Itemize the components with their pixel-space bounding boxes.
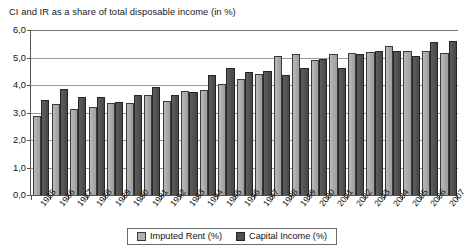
bar-ci-1992 (171, 95, 179, 195)
bar-group (32, 30, 51, 195)
legend-item: Imputed Rent (%) (137, 231, 222, 241)
bar-group (291, 30, 310, 195)
legend-label: Imputed Rent (%) (150, 231, 222, 241)
y-axis-label: 5,0 (13, 53, 26, 63)
bar-group (421, 30, 440, 195)
x-axis-label-cell: 2003 (365, 200, 384, 234)
bar-ci-1997 (263, 71, 271, 195)
bar-ir-1985 (33, 116, 41, 195)
bar-ir-1993 (181, 91, 189, 195)
bar-ci-2004 (393, 51, 401, 195)
bar-ir-1992 (163, 101, 171, 195)
y-axis-tick (27, 168, 31, 169)
bar-group (180, 30, 199, 195)
y-axis-tick (27, 113, 31, 114)
bar-ci-1990 (134, 95, 142, 195)
bar-ci-1987 (78, 97, 86, 195)
bar-ci-2000 (319, 59, 327, 195)
bar-group (199, 30, 218, 195)
y-axis-tick (27, 140, 31, 141)
x-axis-label-cell: 1985 (31, 200, 50, 234)
bar-ci-1999 (300, 68, 308, 195)
x-axis-label-cell: 2007 (439, 200, 458, 234)
bar-ir-1991 (144, 95, 152, 195)
bar-group (365, 30, 384, 195)
bar-ir-2007 (440, 53, 448, 195)
bar-ci-2003 (375, 51, 383, 195)
bar-ir-1990 (126, 103, 134, 195)
bar-ir-1988 (89, 107, 97, 195)
bar-group (402, 30, 421, 195)
bar-ci-1985 (41, 100, 49, 195)
bar-ci-1996 (245, 72, 253, 195)
bar-ir-1999 (292, 54, 300, 195)
bar-ir-2006 (422, 51, 430, 195)
legend-item: Capital Income (%) (236, 231, 327, 241)
x-axis-label-cell: 1988 (87, 200, 106, 234)
y-axis-tick (27, 85, 31, 86)
y-axis-tick (27, 58, 31, 59)
bar-ci-1998 (282, 75, 290, 195)
bar-ci-1986 (60, 89, 68, 195)
bar-group (310, 30, 329, 195)
y-axis-label: 4,0 (13, 80, 26, 90)
bar-group (106, 30, 125, 195)
y-axis-tick (27, 30, 31, 31)
x-axis-label-cell: 2005 (402, 200, 421, 234)
plot-area: 0,01,02,03,04,05,06,0 (30, 30, 458, 196)
bar-group (69, 30, 88, 195)
bar-ir-1987 (70, 109, 78, 195)
bar-group (273, 30, 292, 195)
bar-ir-2001 (329, 54, 337, 195)
bar-ir-2005 (403, 51, 411, 195)
x-axis-label-cell: 1989 (105, 200, 124, 234)
bar-ci-1993 (189, 92, 197, 195)
bar-ci-2007 (449, 41, 457, 195)
bar-group (328, 30, 347, 195)
bar-ir-1998 (274, 56, 282, 195)
bar-group (162, 30, 181, 195)
bar-ir-1989 (107, 103, 115, 195)
bar-group (254, 30, 273, 195)
x-axis-label-cell: 2002 (347, 200, 366, 234)
bar-ir-1994 (200, 90, 208, 195)
bar-ci-2002 (356, 54, 364, 195)
y-axis-label: 0,0 (13, 190, 26, 200)
bar-group (217, 30, 236, 195)
x-axis-label-cell: 2004 (384, 200, 403, 234)
x-axis-label-cell: 1987 (68, 200, 87, 234)
bar-group (347, 30, 366, 195)
bar-ir-2000 (311, 60, 319, 195)
y-axis-label: 6,0 (13, 25, 26, 35)
legend-label: Capital Income (%) (249, 231, 327, 241)
bar-ir-2004 (385, 46, 393, 195)
bar-ci-2006 (430, 42, 438, 195)
bar-ir-1997 (255, 74, 263, 195)
bar-ci-1991 (152, 87, 160, 195)
chart-title: CI and IR as a share of total disposable… (9, 6, 236, 17)
bar-group (143, 30, 162, 195)
bar-group (439, 30, 458, 195)
legend-swatch-ci (236, 232, 245, 241)
x-axis-label-cell: 2006 (421, 200, 440, 234)
bar-group (384, 30, 403, 195)
bar-ci-1995 (226, 68, 234, 195)
bar-group (125, 30, 144, 195)
bar-ir-1995 (218, 84, 226, 195)
bar-group (88, 30, 107, 195)
bar-ir-1996 (237, 79, 245, 195)
chart-legend: Imputed Rent (%)Capital Income (%) (127, 228, 337, 245)
y-axis-label: 2,0 (13, 135, 26, 145)
bars-layer (32, 30, 458, 195)
bar-ci-1989 (115, 102, 123, 195)
bar-ci-2001 (338, 68, 346, 195)
bar-ci-1994 (208, 75, 216, 195)
x-axis-label-cell: 1986 (50, 200, 69, 234)
bar-ci-1988 (97, 97, 105, 195)
bar-ir-2003 (366, 52, 374, 195)
bar-ir-1986 (52, 104, 60, 195)
bar-ir-2002 (348, 53, 356, 195)
bar-ci-2005 (412, 56, 420, 195)
bar-group (236, 30, 255, 195)
